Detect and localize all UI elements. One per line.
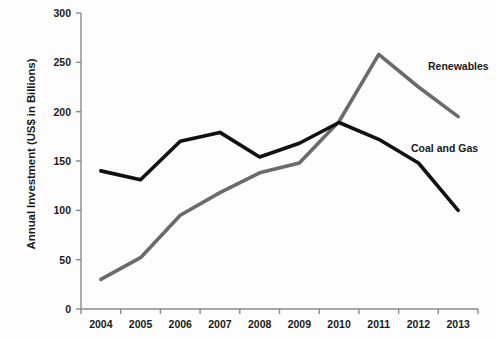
series-label-renewables: Renewables — [428, 60, 489, 72]
series-lines — [101, 54, 458, 279]
plot-area — [0, 0, 498, 339]
line-chart: Annual Investment (US$ in Billions) 0501… — [0, 0, 498, 339]
series-label-coal-and-gas: Coal and Gas — [411, 142, 478, 154]
